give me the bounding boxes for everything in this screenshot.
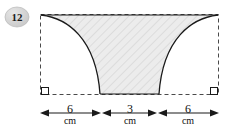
problem-number-badge: 12 bbox=[5, 7, 29, 27]
arrowhead-right-outer-icon bbox=[210, 110, 219, 117]
geometry-figure: 12 6 cm 3 cm bbox=[0, 0, 234, 132]
dimension-right: 6 cm bbox=[158, 102, 219, 126]
dimension-left-unit: cm bbox=[64, 115, 76, 126]
dimension-middle-value: 3 bbox=[127, 102, 133, 116]
dimension-middle-unit: cm bbox=[124, 115, 136, 126]
right-angle-marker-left bbox=[42, 88, 49, 95]
arrowhead-left-inner-icon bbox=[92, 110, 101, 117]
figure-page: 12 6 cm 3 cm bbox=[0, 0, 234, 132]
arrowhead-left-outer-icon bbox=[40, 110, 49, 117]
dimension-right-unit: cm bbox=[182, 115, 194, 126]
dimension-middle: 3 cm bbox=[102, 102, 157, 126]
problem-number-label: 12 bbox=[12, 11, 24, 23]
arrowhead-middle-left-icon bbox=[102, 110, 111, 117]
dimension-left: 6 cm bbox=[40, 102, 101, 126]
right-angle-marker-right bbox=[211, 88, 218, 95]
shaded-region-fill bbox=[41, 15, 218, 94]
dimension-right-value: 6 bbox=[185, 102, 191, 116]
arrowhead-right-inner-icon bbox=[158, 110, 167, 117]
dimension-left-value: 6 bbox=[67, 102, 73, 116]
arrowhead-middle-right-icon bbox=[148, 110, 157, 117]
